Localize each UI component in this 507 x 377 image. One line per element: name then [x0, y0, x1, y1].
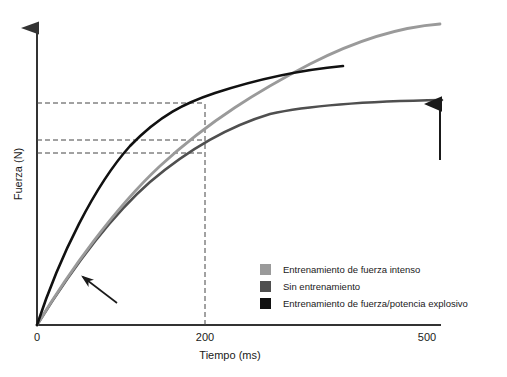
legend-label-explosive: Entrenamiento de fuerza/potencia explosi…	[283, 298, 468, 309]
force-time-curve-figure: 0 200 500 Tiempo (ms) Fuerza (N) Entrena…	[0, 0, 507, 377]
legend-swatch-untrained	[260, 281, 271, 292]
chart-plot-area	[0, 0, 507, 377]
legend-item-untrained: Sin entrenamiento	[260, 278, 468, 294]
legend-item-heavy-strength: Entrenamiento de fuerza intenso	[260, 261, 468, 277]
legend-swatch-explosive	[260, 298, 271, 309]
legend-swatch-heavy-strength	[260, 264, 271, 275]
chart-legend: Entrenamiento de fuerza intenso Sin entr…	[260, 261, 468, 312]
y-axis-title: Fuerza (N)	[12, 134, 24, 214]
legend-label-untrained: Sin entrenamiento	[283, 281, 360, 292]
rfd-arrow	[83, 277, 117, 303]
x-tick-label-200: 200	[190, 331, 220, 343]
x-axis-title: Tiempo (ms)	[0, 349, 460, 361]
legend-item-explosive: Entrenamiento de fuerza/potencia explosi…	[260, 295, 468, 311]
legend-label-heavy-strength: Entrenamiento de fuerza intenso	[283, 264, 420, 275]
x-tick-label-500: 500	[412, 331, 442, 343]
x-tick-label-0: 0	[27, 331, 47, 343]
